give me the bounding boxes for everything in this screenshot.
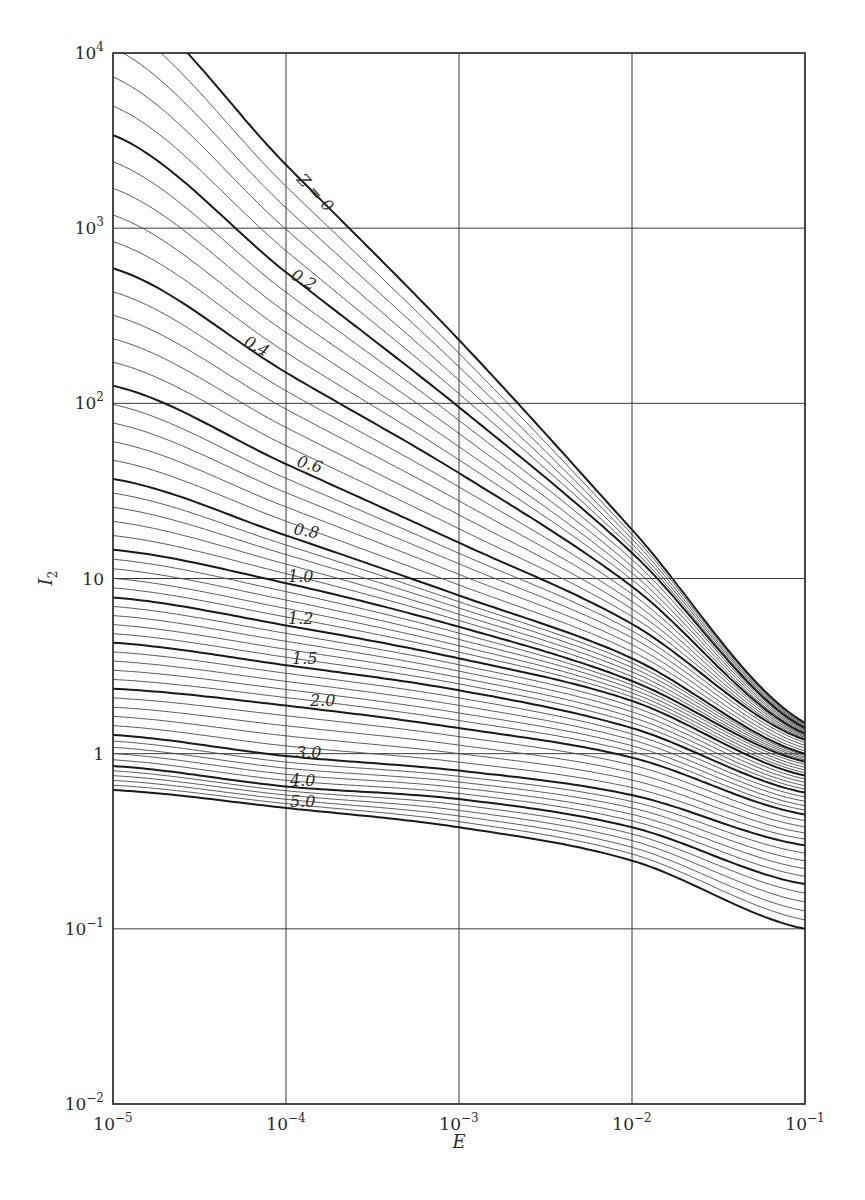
curve-label: 0.4 [241,332,272,361]
y-tick-label: 10−1 [65,916,104,939]
chart: Z = 00.20.40.60.81.01.21.52.03.04.05.0 1… [0,0,865,1200]
y-tick-label: 104 [75,40,105,63]
y-tick-label: 102 [75,390,104,413]
x-tick-label: 10−4 [266,1111,306,1134]
x-tick-label: 10−1 [785,1111,824,1134]
y-axis-ticks: 10410310210110−110−2 [65,40,105,1114]
curve-label: 0.2 [288,265,320,294]
y-tick-label: 10−2 [65,1091,104,1114]
x-tick-label: 10−2 [612,1111,651,1134]
curve-label: 4.0 [289,771,315,790]
curve-label: 1.0 [288,567,313,586]
curve-label: Z = 0 [292,169,337,216]
curve-labels: Z = 00.20.40.60.81.01.21.52.03.04.05.0 [241,169,337,811]
curve-label: 5.0 [290,792,315,811]
y-tick-label: 10 [82,569,104,589]
curve-label: 3.0 [296,743,321,762]
y-tick-label: 1 [93,744,104,764]
curve-label: 2.0 [309,691,335,710]
svg-text:I2: I2 [35,571,60,587]
curve-label: 1.2 [288,609,313,628]
y-axis-label: I2 [35,571,60,587]
y-tick-label: 103 [75,215,104,238]
curve-label: 1.5 [292,649,317,668]
x-axis-label: E [451,1131,465,1152]
curve-label: 0.6 [295,452,325,477]
x-tick-label: 10−5 [93,1111,132,1134]
